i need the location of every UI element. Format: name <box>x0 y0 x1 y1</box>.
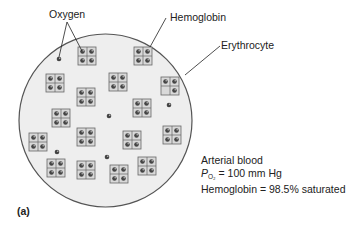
oxygen-icon <box>120 84 125 89</box>
oxygen-icon <box>88 99 93 104</box>
hemoglobin-icon <box>163 126 181 144</box>
oxygen-icon <box>111 75 116 80</box>
oxygen-icon <box>120 75 125 80</box>
info-title: Arterial blood <box>201 154 345 167</box>
oxygen-icon <box>79 90 84 95</box>
oxygen-icon <box>40 135 45 140</box>
po2-symbol: P <box>201 167 208 179</box>
oxygen-icon <box>80 58 85 63</box>
oxygen-icon <box>80 49 85 54</box>
hemoglobin-icon <box>77 161 95 179</box>
oxygen-icon <box>144 110 149 115</box>
oxygen-icon <box>58 170 63 175</box>
oxygen-icon <box>54 120 59 125</box>
blood-info: Arterial blood PO₂ = 100 mm Hg Hemoglobi… <box>201 154 345 196</box>
oxygen-icon <box>40 144 45 149</box>
hemoglobin-icon <box>134 47 152 65</box>
oxygen-icon <box>135 101 140 106</box>
oxygen-icon <box>63 111 68 116</box>
oxygen-icon <box>31 144 36 149</box>
oxygen-icon <box>140 159 145 164</box>
oxygen-icon <box>136 49 141 54</box>
oxygen-icon <box>145 58 150 63</box>
hemoglobin-icon <box>78 47 96 65</box>
oxygen-icon <box>79 139 84 144</box>
oxygen-icon <box>55 150 60 155</box>
oxygen-icon <box>89 58 94 63</box>
erythrocyte-cell <box>19 34 192 207</box>
oxygen-icon <box>88 130 93 135</box>
oxygen-icon <box>88 172 93 177</box>
oxygen-icon <box>134 142 139 147</box>
oxygen-icon <box>48 76 53 81</box>
oxygen-icon <box>165 137 170 142</box>
hemoglobin-label: Hemoglobin <box>170 12 226 23</box>
oxygen-icon <box>79 130 84 135</box>
hemoglobin-icon <box>77 88 95 106</box>
oxygen-icon <box>135 110 140 115</box>
oxygen-icon <box>174 137 179 142</box>
oxygen-icon <box>79 99 84 104</box>
oxygen-icon <box>49 161 54 166</box>
erythrocyte-label: Erythrocyte <box>221 40 274 51</box>
oxygen-icon <box>172 79 177 84</box>
hemoglobin-icon <box>109 73 127 91</box>
erythrocyte-leader-line <box>185 46 220 75</box>
oxygen-icon <box>112 167 117 172</box>
oxygen-icon <box>31 135 36 140</box>
oxygen-icon <box>174 128 179 133</box>
info-saturation: Hemoglobin = 98.5% saturated <box>201 183 345 196</box>
oxygen-icon <box>134 133 139 138</box>
hemoglobin-icon <box>133 99 151 117</box>
oxygen-icon <box>107 114 112 119</box>
panel-label: (a) <box>17 205 30 217</box>
hemoglobin-icon <box>161 77 179 95</box>
oxygen-icon <box>125 142 130 147</box>
hemoglobin-icon <box>110 165 128 183</box>
hemoglobin-icon <box>138 157 156 175</box>
oxygen-icon <box>163 79 168 84</box>
oxygen-icon <box>112 176 117 181</box>
oxygen-icon <box>54 111 59 116</box>
po2-subscript: O₂ <box>208 173 216 180</box>
oxygen-icon <box>79 172 84 177</box>
oxygen-icon <box>79 163 84 168</box>
oxygen-icon <box>145 49 150 54</box>
hemoglobin-icon <box>46 74 64 92</box>
oxygen-icon <box>48 85 53 90</box>
oxygen-icon <box>88 163 93 168</box>
oxygen-icon <box>136 58 141 63</box>
hemoglobin-icon <box>47 159 65 177</box>
oxygen-icon <box>63 120 68 125</box>
oxygen-icon <box>149 159 154 164</box>
oxygen-icon <box>167 103 172 108</box>
po2-value: = 100 mm Hg <box>216 167 282 179</box>
oxygen-icon <box>140 168 145 173</box>
oxygen-icon <box>88 90 93 95</box>
oxygen-icon <box>57 76 62 81</box>
oxygen-icon <box>144 101 149 106</box>
oxygen-icon <box>165 128 170 133</box>
oxygen-icon <box>105 155 110 160</box>
oxygen-icon <box>57 57 62 62</box>
hemoglobin-icon <box>123 131 141 149</box>
oxygen-icon <box>172 88 177 93</box>
hemoglobin-icon <box>29 133 47 151</box>
oxygen-icon <box>89 49 94 54</box>
oxygen-icon <box>125 133 130 138</box>
oxygen-icon <box>57 85 62 90</box>
oxygen-label: Oxygen <box>49 9 85 20</box>
oxygen-icon <box>121 167 126 172</box>
hemoglobin-leader-line <box>150 18 166 47</box>
oxygen-icon <box>111 84 116 89</box>
oxygen-icon <box>49 170 54 175</box>
hemoglobin-icon <box>77 128 95 146</box>
oxygen-icon <box>88 139 93 144</box>
hemoglobin-icon <box>52 109 70 127</box>
info-po2: PO₂ = 100 mm Hg <box>201 167 345 184</box>
oxygen-icon <box>121 176 126 181</box>
oxygen-icon <box>149 168 154 173</box>
oxygen-icon <box>58 161 63 166</box>
